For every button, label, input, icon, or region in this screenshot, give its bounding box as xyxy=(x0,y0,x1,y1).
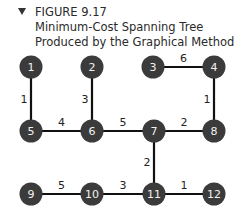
node-label: 10 xyxy=(85,188,99,201)
node-7: 7 xyxy=(143,120,166,143)
node-label: 9 xyxy=(28,188,35,201)
edge-weight-label: 4 xyxy=(58,116,65,129)
node-3: 3 xyxy=(142,56,165,79)
node-6: 6 xyxy=(81,120,104,143)
edges: 13614522531 xyxy=(21,52,215,195)
spanning-tree-graph: 13614522531 123456789101112 xyxy=(0,0,239,221)
node-5: 5 xyxy=(20,120,43,143)
edge-weight-label: 2 xyxy=(144,156,151,169)
node-label: 3 xyxy=(150,61,157,74)
node-label: 1 xyxy=(28,61,35,74)
edge-weight-label: 1 xyxy=(21,93,28,106)
node-label: 2 xyxy=(89,61,96,74)
node-label: 11 xyxy=(147,188,161,201)
node-9: 9 xyxy=(20,183,43,206)
node-1: 1 xyxy=(20,56,43,79)
edge-weight-label: 5 xyxy=(58,179,65,192)
edge-weight-label: 1 xyxy=(181,179,188,192)
edge-weight-label: 6 xyxy=(180,52,187,65)
node-label: 7 xyxy=(151,125,158,138)
node-label: 5 xyxy=(28,125,35,138)
edge-weight-label: 3 xyxy=(120,179,127,192)
node-12: 12 xyxy=(203,183,226,206)
node-label: 12 xyxy=(207,188,221,201)
node-10: 10 xyxy=(81,183,104,206)
node-8: 8 xyxy=(203,120,226,143)
node-label: 8 xyxy=(211,125,218,138)
node-4: 4 xyxy=(203,56,226,79)
edge-weight-label: 3 xyxy=(82,93,89,106)
node-11: 11 xyxy=(143,183,166,206)
edge-weight-label: 1 xyxy=(204,93,211,106)
node-label: 4 xyxy=(211,61,218,74)
edge-weight-label: 2 xyxy=(181,116,188,129)
node-2: 2 xyxy=(81,56,104,79)
edge-weight-label: 5 xyxy=(120,116,127,129)
node-label: 6 xyxy=(89,125,96,138)
